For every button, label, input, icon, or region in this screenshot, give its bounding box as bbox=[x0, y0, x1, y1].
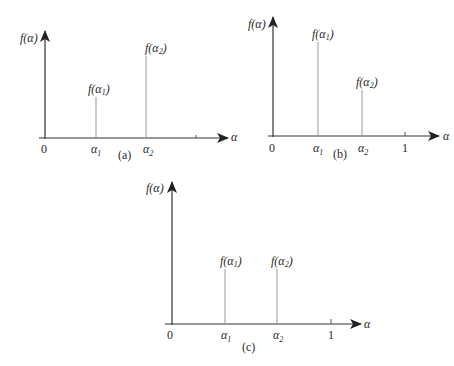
stem-f-alpha2-label: f(α2) bbox=[271, 254, 293, 269]
stem-f-alpha2-label: f(α2) bbox=[145, 41, 167, 56]
x-tick-alpha1-label: α1 bbox=[91, 142, 101, 158]
y-axis-label: f(α) bbox=[248, 17, 266, 31]
one-label: 1 bbox=[402, 141, 408, 155]
stem-f-alpha2-label: f(α2) bbox=[356, 75, 378, 90]
stem-plot-figure: f(α) α 0 f(α1) α1 f(α2) α2 (a) f(α) α 0 … bbox=[0, 0, 454, 366]
origin-label: 0 bbox=[269, 141, 275, 155]
stem-f-alpha1-label: f(α1) bbox=[88, 82, 110, 97]
stem-f-alpha1-label: f(α1) bbox=[220, 254, 242, 269]
y-axis-label: f(α) bbox=[146, 181, 164, 195]
panel-a: f(α) α 0 f(α1) α1 f(α2) α2 (a) bbox=[20, 31, 238, 162]
panel-caption: (c) bbox=[242, 340, 255, 354]
panel-caption: (a) bbox=[118, 148, 131, 162]
y-axis-label: f(α) bbox=[20, 31, 38, 45]
x-axis-label: α bbox=[443, 129, 450, 143]
one-label: 1 bbox=[328, 328, 334, 342]
panel-caption: (b) bbox=[333, 147, 347, 161]
panel-b: f(α) α 0 1 f(α1) α1 f(α2) α2 (b) bbox=[248, 17, 450, 161]
x-tick-alpha2-label: α2 bbox=[358, 141, 368, 157]
origin-label: 0 bbox=[41, 142, 47, 156]
origin-label: 0 bbox=[167, 328, 173, 342]
panel-c: f(α) α 0 1 f(α1) α1 f(α2) α2 (c) bbox=[146, 181, 371, 354]
x-tick-alpha1-label: α1 bbox=[221, 328, 231, 344]
x-tick-alpha1-label: α1 bbox=[313, 141, 323, 157]
x-axis-label: α bbox=[231, 130, 238, 144]
x-axis-label: α bbox=[364, 317, 371, 331]
x-tick-alpha2-label: α2 bbox=[273, 328, 283, 344]
x-tick-alpha2-label: α2 bbox=[143, 142, 153, 158]
stem-f-alpha1-label: f(α1) bbox=[312, 27, 334, 42]
